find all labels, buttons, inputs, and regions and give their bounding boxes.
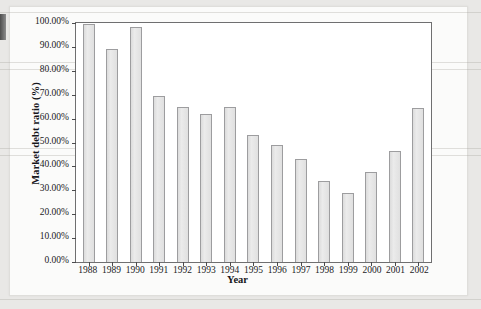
bar [83, 24, 95, 262]
bar-slot [406, 23, 430, 262]
bar [365, 172, 377, 262]
bar-slot [289, 23, 313, 262]
bar-slot [124, 23, 148, 262]
x-axis-title: Year [9, 274, 466, 285]
bar [295, 159, 307, 262]
y-axis-tick-label: 40.00% [40, 159, 69, 169]
scanned-page-background: Market debt ratio (%) 100.00%90.00%80.00… [0, 0, 481, 309]
y-axis-tick-label: 100.00% [35, 16, 69, 26]
bar-slot [359, 23, 383, 262]
bar-slot [101, 23, 125, 262]
bar [224, 107, 236, 262]
bar-slot [336, 23, 360, 262]
scan-line [0, 299, 481, 300]
bar-slot [171, 23, 195, 262]
y-axis-tick-label: 0.00% [44, 255, 69, 265]
y-axis-tick-label: 80.00% [40, 64, 69, 74]
plot-area: 100.00%90.00%80.00%70.00%60.00%50.00%40.… [75, 22, 432, 263]
bar-slot [218, 23, 242, 262]
bar-slot [312, 23, 336, 262]
bar-slot [265, 23, 289, 262]
y-axis-tick-label: 70.00% [40, 88, 69, 98]
y-axis-tick-mark [72, 262, 76, 263]
bar-slot [148, 23, 172, 262]
bar-slot [195, 23, 219, 262]
y-axis-tick-label: 90.00% [40, 40, 69, 50]
bar [318, 181, 330, 262]
bar [412, 108, 424, 262]
bar-chart: Market debt ratio (%) 100.00%90.00%80.00… [9, 6, 466, 294]
bar-slot [77, 23, 101, 262]
y-axis-tick-label: 60.00% [40, 112, 69, 122]
bar [342, 193, 354, 262]
bar [153, 96, 165, 262]
bar [389, 151, 401, 262]
bar [177, 107, 189, 262]
bar-slot [242, 23, 266, 262]
scan-artifact-mark [0, 14, 6, 40]
y-axis-tick-label: 30.00% [40, 183, 69, 193]
bar [200, 114, 212, 262]
bar [271, 145, 283, 262]
bar-series [76, 23, 431, 262]
y-axis-tick-label: 50.00% [40, 136, 69, 146]
bar [130, 27, 142, 262]
bar [247, 135, 259, 262]
bar [106, 49, 118, 262]
y-axis-tick-label: 10.00% [40, 231, 69, 241]
y-axis-tick-label: 20.00% [40, 207, 69, 217]
bar-slot [383, 23, 407, 262]
